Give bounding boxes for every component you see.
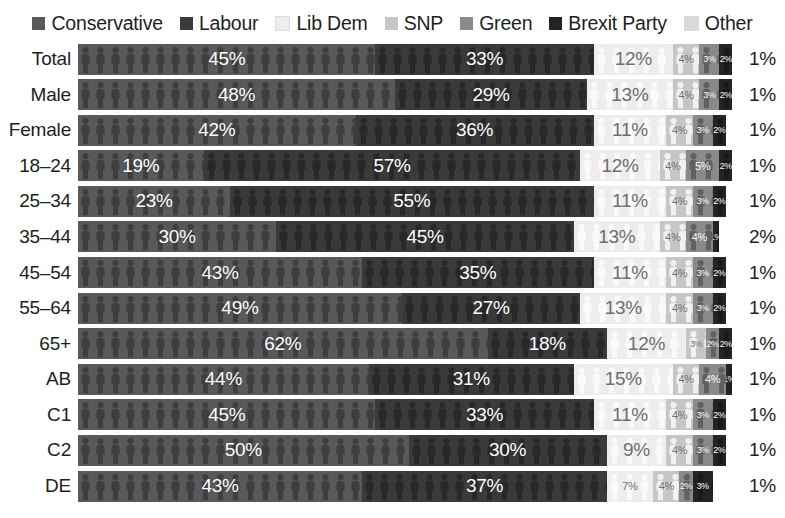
bar-segment-lib-dem[interactable]: 7% xyxy=(607,471,653,502)
bar-segment-value: 3% xyxy=(703,90,715,100)
row-label-35-44: 35–44 xyxy=(0,226,78,248)
bar-segment-brexit-party[interactable]: 2% xyxy=(719,79,732,110)
bar-segment-lib-dem[interactable]: 11% xyxy=(594,186,667,217)
bar-segment-green[interactable]: 3% xyxy=(693,115,713,146)
bar-segment-snp[interactable]: 4% xyxy=(666,186,692,217)
bar-segment-snp[interactable]: 4% xyxy=(660,150,686,181)
bar-segment-green[interactable]: 3% xyxy=(693,257,713,288)
bar-segment-lib-dem[interactable]: 15% xyxy=(574,364,673,395)
bar-segment-labour[interactable]: 55% xyxy=(230,186,594,217)
legend-item-lib-dem[interactable]: Lib Dem xyxy=(275,12,367,35)
bar-segment-labour[interactable]: 33% xyxy=(375,399,593,430)
bar-segment-snp[interactable]: 3% xyxy=(686,328,706,359)
legend-item-snp[interactable]: SNP xyxy=(385,12,444,35)
bar-segment-conservative[interactable]: 45% xyxy=(78,44,375,75)
bar-segment-labour[interactable]: 29% xyxy=(395,79,587,110)
bar-segment-labour[interactable]: 45% xyxy=(276,221,573,252)
bar-segment-brexit-party[interactable]: 1% xyxy=(713,221,720,252)
bar-segment-brexit-party[interactable]: 2% xyxy=(713,186,726,217)
bar-segment-value: 45% xyxy=(406,226,443,248)
bar-segment-lib-dem[interactable]: 13% xyxy=(580,293,666,324)
bar-segment-lib-dem[interactable]: 13% xyxy=(587,79,673,110)
legend-item-labour[interactable]: Labour xyxy=(180,12,259,35)
bar-segment-green[interactable]: 2% xyxy=(706,328,719,359)
bar-segment-labour[interactable]: 27% xyxy=(402,293,580,324)
bar-segment-brexit-party[interactable]: 2% xyxy=(713,435,726,466)
bar-segment-lib-dem[interactable]: 11% xyxy=(594,399,667,430)
bar-segment-conservative[interactable]: 19% xyxy=(78,150,204,181)
bar-segment-green[interactable]: 4% xyxy=(699,364,725,395)
bar-segment-green[interactable]: 5% xyxy=(686,150,719,181)
bar-segment-conservative[interactable]: 43% xyxy=(78,471,362,502)
bar-segment-lib-dem[interactable]: 13% xyxy=(574,221,660,252)
bar-segment-conservative[interactable]: 62% xyxy=(78,328,488,359)
bar-segment-value: 2% xyxy=(713,196,725,206)
bar-segment-brexit-party[interactable]: 2% xyxy=(713,399,726,430)
bar-segment-value: 4% xyxy=(659,480,674,492)
bar-segment-lib-dem[interactable]: 11% xyxy=(594,257,667,288)
stacked-bar: 43%37%7%4%2%3% xyxy=(78,471,739,502)
bar-segment-lib-dem[interactable]: 9% xyxy=(607,435,666,466)
bar-segment-green[interactable]: 3% xyxy=(693,293,713,324)
bar-segment-value: 11% xyxy=(612,262,648,284)
bar-segment-green[interactable]: 3% xyxy=(699,44,719,75)
bar-segment-conservative[interactable]: 44% xyxy=(78,364,369,395)
legend-item-label: Labour xyxy=(199,12,259,35)
bar-segment-labour[interactable]: 36% xyxy=(356,115,594,146)
bar-segment-snp[interactable]: 4% xyxy=(666,293,692,324)
bar-segment-conservative[interactable]: 30% xyxy=(78,221,276,252)
bar-segment-lib-dem[interactable]: 12% xyxy=(594,44,673,75)
bar-segment-conservative[interactable]: 45% xyxy=(78,399,375,430)
bar-segment-value: 31% xyxy=(453,368,490,390)
bar-segment-brexit-party[interactable]: 2% xyxy=(713,293,726,324)
bar-segment-green[interactable]: 3% xyxy=(693,435,713,466)
bar-segment-value: 3% xyxy=(697,445,709,455)
bar-segment-brexit-party[interactable]: 1% xyxy=(726,364,733,395)
bar-segment-value: 4% xyxy=(665,160,680,172)
bar-segment-brexit-party[interactable]: 2% xyxy=(719,328,732,359)
bar-segment-snp[interactable]: 4% xyxy=(660,221,686,252)
bar-segment-other-value: 2% xyxy=(739,226,776,248)
legend-item-green[interactable]: Green xyxy=(460,12,532,35)
bar-segment-snp[interactable]: 4% xyxy=(666,115,692,146)
bar-segment-value: 29% xyxy=(473,84,510,106)
bar-segment-brexit-party[interactable]: 2% xyxy=(719,150,732,181)
bar-segment-brexit-party[interactable]: 2% xyxy=(719,44,732,75)
bar-segment-green[interactable]: 3% xyxy=(693,186,713,217)
bar-segment-labour[interactable]: 33% xyxy=(375,44,593,75)
bar-segment-snp[interactable]: 4% xyxy=(666,399,692,430)
bar-segment-green[interactable]: 3% xyxy=(693,399,713,430)
bar-segment-snp[interactable]: 4% xyxy=(653,471,679,502)
legend-item-brexit-party[interactable]: Brexit Party xyxy=(549,12,666,35)
bar-segment-labour[interactable]: 30% xyxy=(409,435,607,466)
bar-segment-snp[interactable]: 4% xyxy=(673,79,699,110)
bar-segment-snp[interactable]: 4% xyxy=(673,44,699,75)
bar-segment-conservative[interactable]: 48% xyxy=(78,79,395,110)
bar-segment-conservative[interactable]: 42% xyxy=(78,115,356,146)
bar-segment-conservative[interactable]: 49% xyxy=(78,293,402,324)
bar-segment-value: 4% xyxy=(672,267,687,279)
bar-segment-conservative[interactable]: 23% xyxy=(78,186,230,217)
bar-segment-lib-dem[interactable]: 11% xyxy=(594,115,667,146)
bar-segment-green[interactable]: 3% xyxy=(699,79,719,110)
bar-segment-brexit-party[interactable]: 3% xyxy=(693,471,713,502)
bar-segment-value: 2% xyxy=(720,90,732,100)
bar-segment-snp[interactable]: 4% xyxy=(666,257,692,288)
bar-segment-labour[interactable]: 37% xyxy=(362,471,607,502)
bar-segment-lib-dem[interactable]: 12% xyxy=(580,150,659,181)
bar-segment-snp[interactable]: 4% xyxy=(666,435,692,466)
bar-segment-conservative[interactable]: 43% xyxy=(78,257,362,288)
bar-segment-conservative[interactable]: 50% xyxy=(78,435,409,466)
bar-segment-brexit-party[interactable]: 2% xyxy=(713,257,726,288)
legend-item-conservative[interactable]: Conservative xyxy=(32,12,162,35)
bar-segment-lib-dem[interactable]: 12% xyxy=(607,328,686,359)
bar-segment-snp[interactable]: 4% xyxy=(673,364,699,395)
bar-segment-labour[interactable]: 31% xyxy=(369,364,574,395)
bar-segment-brexit-party[interactable]: 2% xyxy=(713,115,726,146)
bar-segment-green[interactable]: 2% xyxy=(679,471,692,502)
bar-segment-labour[interactable]: 18% xyxy=(488,328,607,359)
bar-segment-green[interactable]: 4% xyxy=(686,221,712,252)
legend-item-other[interactable]: Other xyxy=(684,12,753,35)
bar-segment-labour[interactable]: 57% xyxy=(204,150,581,181)
bar-segment-labour[interactable]: 35% xyxy=(362,257,593,288)
